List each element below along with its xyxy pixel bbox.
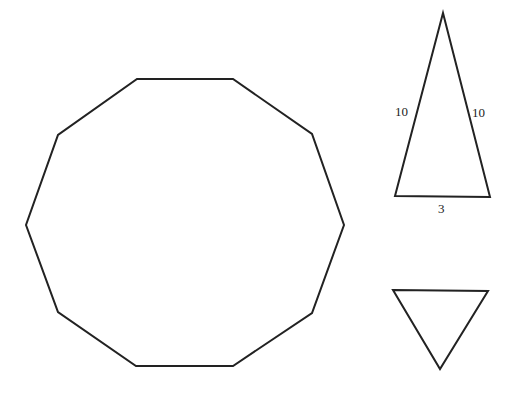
- figure-svg: 10 10 3: [0, 0, 517, 395]
- diagram-canvas: 10 10 3: [0, 0, 517, 395]
- right-side-label: 10: [472, 105, 485, 120]
- base-label: 3: [438, 201, 445, 216]
- left-side-label: 10: [395, 104, 408, 119]
- inverted-triangle: [393, 290, 488, 369]
- decagon: [26, 79, 344, 366]
